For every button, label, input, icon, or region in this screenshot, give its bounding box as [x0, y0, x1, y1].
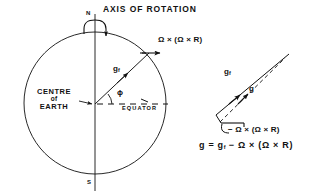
- centre-leader-line: [79, 101, 92, 104]
- latitude-symbol-label: ϕ: [117, 89, 123, 97]
- neg-centrifugal-label: − Ω × (Ω × R): [228, 126, 280, 134]
- gf-vector-label: gf: [113, 65, 120, 74]
- right-base-left-edge: [216, 115, 221, 123]
- right-gf-subscript: f: [229, 70, 231, 76]
- right-gf-arrow: [229, 95, 240, 104]
- equation-rhs-subscript: f: [224, 144, 226, 150]
- south-pole-label: S: [87, 179, 91, 185]
- centre-of-earth-label: CENTRE of EARTH: [29, 88, 79, 111]
- equation-equals: =: [208, 140, 214, 150]
- figure-title: AXIS OF ROTATION: [103, 5, 197, 14]
- latitude-angle-arc: [108, 94, 112, 104]
- centrifugal-label: Ω × (Ω × R): [158, 36, 202, 44]
- figure-root: AXIS OF ROTATION N S CENTRE of EARTH EQU…: [0, 0, 313, 196]
- right-g-label: g: [249, 85, 254, 93]
- gf-vector-arrow: [117, 73, 128, 83]
- equation-lhs: g: [199, 140, 205, 150]
- gf-subscript: f: [118, 67, 120, 73]
- equation-rhs-rest: − Ω × (Ω × R): [229, 140, 293, 150]
- right-gf-label: gf: [224, 68, 231, 77]
- centre-line-3: EARTH: [29, 103, 79, 111]
- equator-label: EQUATOR: [122, 106, 157, 112]
- gravity-equation: g = gf − Ω × (Ω × R): [199, 141, 293, 151]
- equator-leader-tick: [141, 99, 148, 102]
- north-pole-label: N: [86, 10, 91, 16]
